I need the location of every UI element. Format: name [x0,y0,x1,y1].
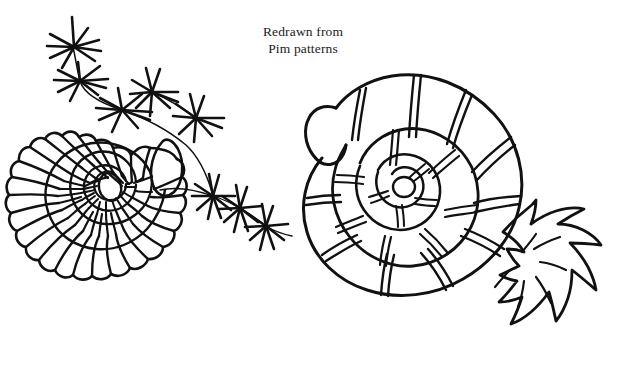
illustration-svg: Redrawn from Pim patterns [0,0,623,372]
illustration-canvas: Redrawn from Pim patterns [0,0,623,372]
caption-line-2: Pim patterns [268,41,338,56]
caption-line-1: Redrawn from [263,24,343,39]
